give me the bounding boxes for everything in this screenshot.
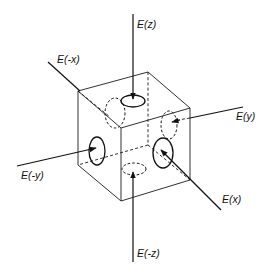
line-e-neg-x — [48, 62, 80, 91]
label-e-neg-y: E(-y) — [21, 170, 44, 181]
patch-y — [161, 111, 177, 139]
cube-edges — [78, 72, 190, 201]
label-e-y: E(y) — [236, 111, 255, 122]
hidden-flux-patches — [105, 98, 177, 175]
patch-neg-y — [89, 137, 105, 165]
label-e-neg-x: E(-x) — [57, 54, 80, 65]
patch-neg-z — [122, 163, 146, 175]
label-e-neg-z: E(-z) — [137, 248, 160, 259]
arrow-e-neg-y — [17, 148, 96, 166]
arrow-e-x — [161, 150, 221, 210]
arrowhead-e-y — [172, 120, 180, 122]
visible-flux-patches — [89, 95, 173, 168]
patch-x — [153, 138, 173, 168]
label-e-x: E(x) — [222, 194, 241, 205]
cube-flux-diagram: E(z) E(-x) E(y) E(-y) E(x) E(-z) — [0, 0, 268, 273]
field-arrows — [17, 14, 243, 262]
label-e-z: E(z) — [137, 19, 156, 30]
diagram-canvas — [0, 0, 268, 273]
